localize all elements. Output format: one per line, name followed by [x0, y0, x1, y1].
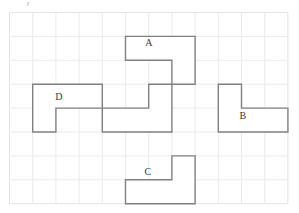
stray-pencil-mark — [27, 2, 31, 7]
shape-outline-d[interactable] — [33, 84, 103, 132]
shape-outline-a[interactable] — [126, 36, 196, 84]
shape-outline-c[interactable] — [126, 156, 196, 204]
shape-outline-reference[interactable] — [102, 84, 172, 132]
shape-layer — [0, 0, 299, 213]
shape-outline-b[interactable] — [218, 84, 288, 132]
figure-canvas: ABCD — [0, 0, 299, 213]
